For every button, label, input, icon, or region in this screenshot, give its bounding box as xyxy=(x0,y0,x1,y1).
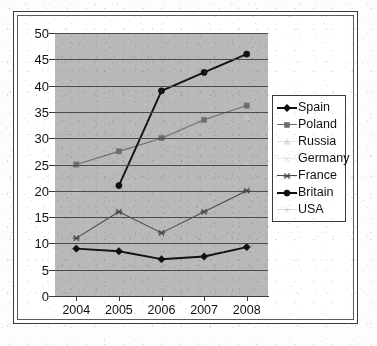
y-tick-mark xyxy=(49,270,55,271)
legend-marker xyxy=(276,133,298,150)
legend-swatch-triangle-icon xyxy=(276,133,298,150)
legend-marker xyxy=(276,116,298,133)
legend-item-france[interactable]: France xyxy=(276,167,343,184)
x-tick-mark xyxy=(76,296,77,301)
x-tick-label: 2008 xyxy=(233,303,261,317)
x-tick-mark xyxy=(247,296,248,301)
legend-item-usa[interactable]: USA xyxy=(276,201,343,218)
y-tick-mark xyxy=(49,33,55,34)
legend-label: Russia xyxy=(298,133,336,150)
y-tick-label: 25 xyxy=(35,157,49,172)
y-tick-mark xyxy=(49,138,55,139)
y-tick-label: 30 xyxy=(35,131,49,146)
legend-marker xyxy=(276,99,298,116)
y-tick-label: 20 xyxy=(35,183,49,198)
y-tick-mark xyxy=(49,296,55,297)
gridline xyxy=(55,217,268,218)
chart-page: 05101520253035404550 2004200520062007200… xyxy=(0,0,377,346)
y-tick-mark xyxy=(49,86,55,87)
series-spain xyxy=(73,243,251,262)
y-axis-labels: 05101520253035404550 xyxy=(13,33,49,296)
legend-label: Germany xyxy=(298,150,349,167)
legend-swatch-star-icon xyxy=(276,167,298,184)
gridline xyxy=(55,112,268,113)
gridline xyxy=(55,138,268,139)
y-tick-mark xyxy=(49,217,55,218)
legend-label: France xyxy=(298,167,337,184)
gridline xyxy=(55,270,268,271)
legend-label: Britain xyxy=(298,184,333,201)
x-tick-label: 2007 xyxy=(190,303,218,317)
legend-marker xyxy=(276,201,298,218)
gridline xyxy=(55,33,268,34)
legend-item-poland[interactable]: Poland xyxy=(276,116,343,133)
y-tick-label: 15 xyxy=(35,210,49,225)
x-tick-label: 2004 xyxy=(62,303,90,317)
legend-swatch-diamond-icon xyxy=(276,99,298,116)
y-tick-mark xyxy=(49,191,55,192)
legend-marker xyxy=(276,167,298,184)
series-france xyxy=(73,188,251,241)
gridline xyxy=(55,191,268,192)
legend-swatch-circle-icon xyxy=(276,184,298,201)
gridline xyxy=(55,59,268,60)
legend-swatch-cross-icon xyxy=(276,150,298,167)
gridline xyxy=(55,165,268,166)
legend-label: Spain xyxy=(298,99,330,116)
series-britain xyxy=(116,51,250,189)
plot-area xyxy=(55,33,268,296)
y-tick-mark xyxy=(49,59,55,60)
legend-label: USA xyxy=(298,201,324,218)
gridline xyxy=(55,86,268,87)
legend: SpainPolandRussiaGermanyFranceBritainUSA xyxy=(272,95,346,222)
y-tick-label: 50 xyxy=(35,26,49,41)
y-tick-label: 0 xyxy=(42,289,49,304)
legend-item-spain[interactable]: Spain xyxy=(276,99,343,116)
y-tick-mark xyxy=(49,112,55,113)
y-tick-mark xyxy=(49,165,55,166)
y-tick-label: 45 xyxy=(35,52,49,67)
gridline xyxy=(55,243,268,244)
y-tick-mark xyxy=(49,243,55,244)
legend-item-germany[interactable]: Germany xyxy=(276,150,343,167)
y-tick-label: 35 xyxy=(35,104,49,119)
x-tick-mark xyxy=(204,296,205,301)
legend-marker xyxy=(276,150,298,167)
legend-swatch-square-icon xyxy=(276,116,298,133)
legend-item-britain[interactable]: Britain xyxy=(276,184,343,201)
series-russia xyxy=(243,114,250,120)
y-tick-label: 5 xyxy=(42,262,49,277)
y-tick-label: 10 xyxy=(35,236,49,251)
line-chart: 05101520253035404550 2004200520062007200… xyxy=(13,11,358,324)
x-tick-mark xyxy=(162,296,163,301)
legend-swatch-plus-icon xyxy=(276,201,298,218)
legend-marker xyxy=(276,184,298,201)
y-tick-label: 40 xyxy=(35,78,49,93)
legend-item-russia[interactable]: Russia xyxy=(276,133,343,150)
x-tick-label: 2005 xyxy=(105,303,133,317)
x-tick-label: 2006 xyxy=(148,303,176,317)
legend-label: Poland xyxy=(298,116,337,133)
x-tick-mark xyxy=(119,296,120,301)
